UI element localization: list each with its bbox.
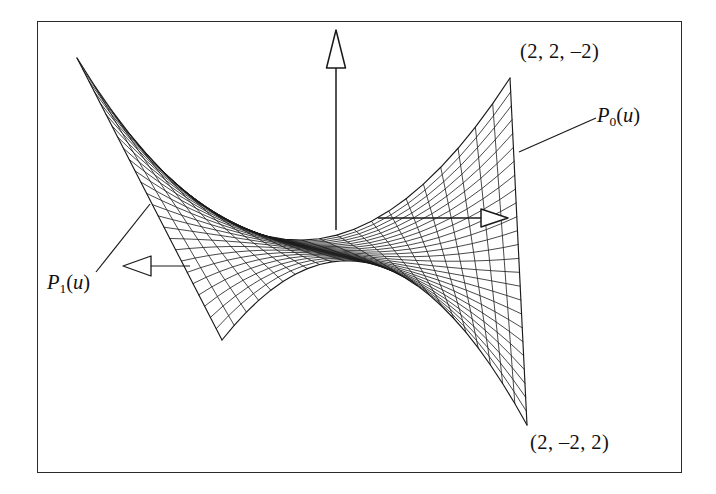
- wire-line: [118, 137, 515, 248]
- curve-label-p1-arg: (u): [66, 271, 90, 293]
- ruled-surface-wireframe: [0, 0, 716, 494]
- curve-label-p1-name: P: [47, 271, 60, 293]
- wire-line: [441, 167, 478, 348]
- wire-line: [181, 250, 522, 328]
- p1-arrowhead-icon: [123, 256, 151, 276]
- curve-label-p0-name: P: [597, 104, 610, 126]
- wire-line: [406, 199, 454, 319]
- wire-line: [210, 258, 525, 397]
- vertical-axis-arrowhead-icon: [327, 30, 346, 68]
- wire-line: [94, 85, 234, 325]
- wire-line: [216, 260, 526, 412]
- curve-label-p0: P0(u): [597, 105, 640, 129]
- wire-line: [106, 114, 513, 245]
- wire-line: [389, 211, 442, 306]
- corner-label-bottom-right: (2, –2, 2): [530, 432, 609, 453]
- curve-label-p1: P1(u): [47, 272, 90, 296]
- curve-label-p0-arg: (u): [616, 104, 640, 126]
- wire-line: [123, 148, 515, 249]
- corner-label-top-right: (2, 2, –2): [520, 41, 599, 62]
- wire-line: [222, 261, 527, 425]
- wire-line: [135, 171, 517, 252]
- wire-line: [493, 104, 515, 404]
- wireframe-lines: [77, 58, 527, 425]
- figure-root: (2, 2, –2) (2, –2, 2) P0(u) P1(u): [0, 0, 716, 494]
- wire-line: [199, 256, 524, 370]
- wire-line: [475, 127, 502, 383]
- wire-line: [77, 58, 222, 340]
- wire-line: [176, 246, 522, 313]
- leader-line-p0: [519, 118, 596, 152]
- horizontal-axis-arrowhead-icon: [481, 209, 508, 227]
